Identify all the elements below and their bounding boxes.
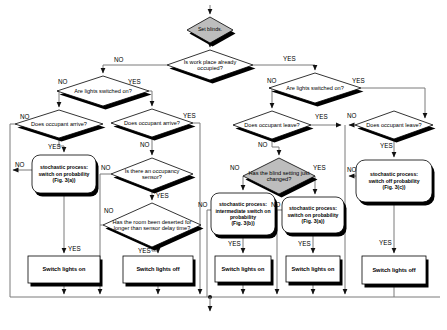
edge-lightsL-yes [149, 91, 152, 106]
edge-arrive1-no-rail [10, 124, 15, 297]
edge-label-b5-yes: YES [298, 240, 311, 247]
node-switch-on-prob-left-shape [32, 155, 99, 197]
node-switch-lights-off-2-shape [362, 256, 429, 288]
flowchart-canvas: Set blinds. Is work place already occupi… [0, 0, 447, 330]
node-occupancy-sensor-shape [111, 158, 196, 194]
node-occupant-leave-1-shape [233, 111, 314, 143]
edge-label-b4-yes: YES [228, 240, 241, 247]
node-occupant-leave-2-shape [355, 111, 436, 143]
edge-label-arrive2-no: NO [140, 141, 149, 148]
node-lights-on-right-shape [269, 73, 364, 107]
edge-label-deserted-no: NO [104, 207, 113, 214]
edge-label-b4-no: NO [198, 201, 207, 208]
edge-b4-no-rail [207, 210, 211, 297]
node-switch-lights-on-3-shape [286, 256, 343, 286]
edge-label-sensor-yes: YES [156, 192, 169, 199]
edge-label-leave2-no: NO [347, 112, 356, 119]
edge-label-blind-no: NO [230, 164, 239, 171]
node-room-deserted-shape [103, 203, 204, 251]
node-switch-off-prob-shape [356, 160, 435, 206]
edge-label-blind-yes: YES [313, 164, 326, 171]
edge-label-arrive2-yes: YES [183, 112, 196, 119]
node-switch-lights-off-1-shape [123, 256, 196, 287]
edge-label-lightsL-yes: YES [128, 78, 141, 85]
edge-label-leave2-yes: YES [380, 142, 393, 149]
edge-label-deserted-yes: YES [138, 247, 151, 254]
node-switch-lights-on-1-shape [28, 256, 103, 287]
edge-occupied-no [103, 65, 167, 73]
node-set-blinds-shape [187, 17, 236, 47]
edge-label-lightsL-no: NO [58, 78, 67, 85]
edge-occupied-yes [253, 65, 315, 70]
flowchart-graphics [0, 0, 447, 330]
node-switch-on-prob-right-shape [282, 197, 347, 237]
edge-lightsL-no [57, 91, 59, 107]
edge-label-leave1-yes: YES [315, 113, 328, 120]
edge-lightsR-no [269, 88, 272, 108]
node-switch-lights-on-2-shape [215, 256, 274, 286]
edge-label-occupied-yes: YES [283, 55, 296, 62]
node-intermediate-switch-on-prob-shape [211, 193, 278, 239]
edge-label-b5-no: NO [271, 201, 280, 208]
edge-label-b6-no: NO [347, 166, 356, 173]
edge-label-sensor-no: NO [101, 164, 110, 171]
edge-label-arrive1-yes: YES [48, 143, 61, 150]
edge-label-lightsR-no: NO [267, 77, 276, 84]
edge-label-leave1-no: NO [258, 141, 267, 148]
edge-label-b1-no: NO [15, 161, 24, 168]
node-workplace-occupied-shape [167, 50, 256, 84]
edge-label-occupied-no: NO [114, 56, 123, 63]
edge-label-b1-yes: YES [68, 245, 81, 252]
edge-b5-no-rail [277, 210, 282, 294]
node-blind-setting-changed-shape [243, 158, 318, 198]
edge-label-lightsR-yes: YES [352, 77, 365, 84]
edge-label-b6-yes: YES [379, 239, 392, 246]
edge-label-arrive1-no: NO [20, 113, 29, 120]
